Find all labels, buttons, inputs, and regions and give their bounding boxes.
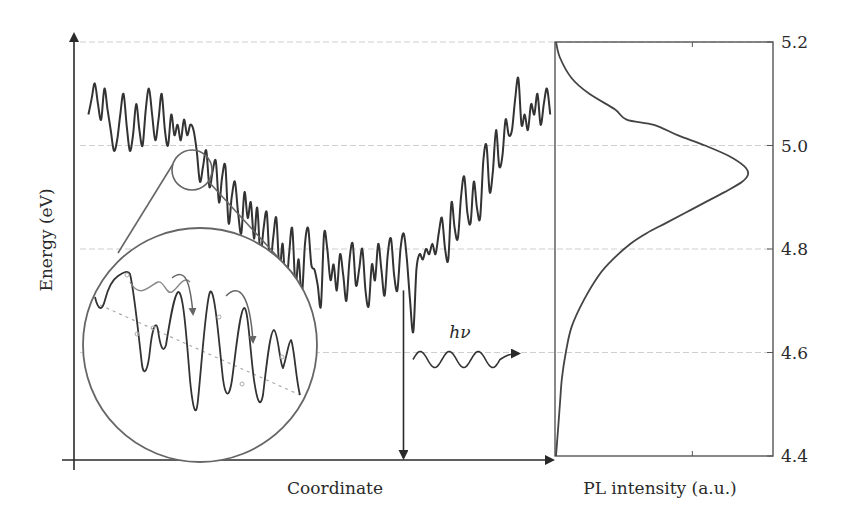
y-tick-label: 4.6	[781, 343, 808, 363]
magnifier-lens	[83, 228, 317, 462]
figure: hν 5.25.04.84.64.4 Coordinate Energy (eV…	[0, 0, 853, 521]
pl-x-axis-label: PL intensity (a.u.)	[583, 478, 737, 498]
energy-tick-labels: 5.25.04.84.64.4	[781, 32, 808, 466]
x-axis-label: Coordinate	[287, 478, 383, 498]
magnifier-source-circle	[172, 150, 212, 190]
photon-wave-icon	[413, 352, 519, 368]
y-tick-label: 4.4	[781, 446, 808, 466]
photon-label: hν	[449, 322, 470, 342]
y-tick-label: 5.2	[781, 32, 808, 52]
y-axis-label: Energy (eV)	[36, 188, 56, 291]
y-tick-label: 5.0	[781, 136, 808, 156]
magnifier	[83, 150, 317, 462]
y-tick-label: 4.8	[781, 239, 808, 259]
